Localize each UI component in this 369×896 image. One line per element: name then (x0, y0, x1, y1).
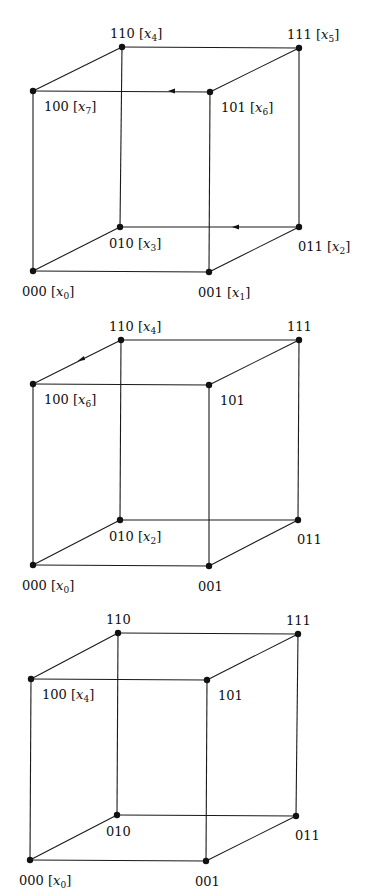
edge-110-100 (33, 340, 121, 384)
arrowhead-icon (78, 356, 86, 361)
vertex-label-000: 000 [x0] (22, 578, 74, 595)
vertex-label-101: 101 (218, 688, 243, 703)
edge-010-000 (30, 815, 117, 860)
arrowhead-icon (168, 89, 175, 94)
vertex-label-100: 100 [x4] (42, 687, 94, 704)
edge-110-111 (118, 633, 298, 634)
vertex-101 (204, 677, 210, 683)
vertex-label-111: 111 (286, 613, 311, 628)
vertex-label-011: 011 (297, 532, 322, 547)
vertex-000 (30, 268, 36, 274)
edge-111-101 (210, 48, 299, 92)
vertex-011 (293, 813, 299, 819)
vertex-label-010: 010 [x2] (109, 529, 161, 546)
vertex-label-111: 111 [x5] (287, 27, 339, 44)
edge-010-000 (33, 227, 120, 271)
edge-110-100 (31, 633, 118, 679)
vertex-111 (296, 337, 302, 343)
cube-2: 100 [x6]101110 [x4]111010 [x2]011000 [x0… (22, 319, 322, 595)
edge-010-000 (33, 520, 120, 565)
vertex-label-010: 010 (106, 824, 131, 839)
edge-111-101 (209, 340, 299, 385)
vertex-label-100: 100 [x7] (44, 99, 96, 116)
vertex-100 (30, 381, 36, 387)
vertex-111 (296, 45, 302, 51)
vertex-000 (27, 857, 33, 863)
edge-000-001 (33, 565, 209, 566)
edge-000-001 (33, 271, 209, 272)
vertex-label-110: 110 [x4] (109, 319, 161, 336)
vertex-110 (119, 44, 125, 50)
vertex-110 (118, 337, 124, 343)
edge-111-101 (207, 634, 298, 680)
vertex-001 (206, 269, 212, 275)
vertex-101 (206, 382, 212, 388)
vertex-010 (117, 517, 123, 523)
vertex-label-001: 001 (198, 579, 223, 594)
vertex-001 (206, 563, 212, 569)
edge-100-101 (31, 679, 207, 680)
vertex-010 (117, 224, 123, 230)
edge-111-011 (298, 340, 299, 520)
vertex-label-011: 011 (295, 828, 320, 843)
vertex-101 (207, 89, 213, 95)
vertex-label-000: 000 [x0] (22, 284, 74, 301)
edge-011-001 (209, 227, 299, 272)
vertex-label-001: 001 [x1] (198, 285, 250, 302)
vertex-111 (295, 631, 301, 637)
edge-011-001 (209, 520, 298, 566)
vertex-label-010: 010 [x3] (109, 236, 161, 253)
vertex-label-101: 101 (220, 393, 245, 408)
edge-110-100 (33, 47, 122, 91)
edge-110-010 (120, 340, 121, 520)
edge-111-011 (296, 634, 298, 816)
vertex-100 (30, 88, 36, 94)
vertex-000 (30, 562, 36, 568)
vertex-label-110: 110 (106, 612, 131, 627)
vertex-011 (295, 517, 301, 523)
edge-011-001 (206, 816, 296, 861)
edge-000-001 (30, 860, 206, 861)
vertex-110 (115, 630, 121, 636)
vertex-label-011: 011 [x2] (298, 239, 350, 256)
edge-101-001 (206, 680, 207, 861)
vertex-label-100: 100 [x6] (44, 392, 96, 409)
vertex-label-101: 101 [x6] (221, 100, 273, 117)
cube-3: 100 [x4]101110111010011000 [x0]001 (19, 612, 320, 890)
edge-110-010 (120, 47, 122, 227)
cube-1: 100 [x7]101 [x6]110 [x4]111 [x5]010 [x3]… (22, 26, 350, 302)
edge-101-001 (209, 92, 210, 272)
edge-110-111 (122, 47, 299, 48)
vertex-label-110: 110 [x4] (110, 26, 162, 43)
vertex-010 (114, 812, 120, 818)
hypercube-diagram-canvas: 100 [x7]101 [x6]110 [x4]111 [x5]010 [x3]… (0, 0, 369, 896)
vertex-001 (203, 858, 209, 864)
vertex-label-001: 001 (195, 874, 220, 889)
vertex-100 (28, 676, 34, 682)
vertex-label-000: 000 [x0] (19, 873, 71, 890)
edge-110-010 (117, 633, 118, 815)
arrowhead-icon (232, 225, 239, 230)
edge-100-000 (30, 679, 31, 860)
vertex-011 (296, 224, 302, 230)
vertex-label-111: 111 (287, 319, 312, 334)
